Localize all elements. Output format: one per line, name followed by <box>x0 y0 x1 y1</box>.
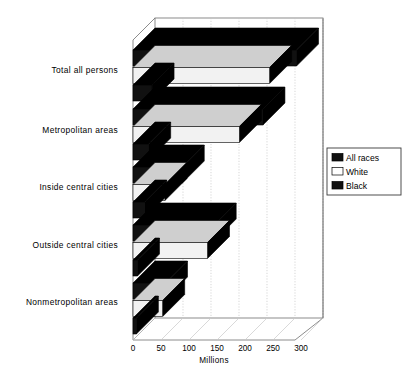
category-label-total-all-persons: Total all persons <box>52 65 118 75</box>
legend-swatch-black <box>332 182 343 190</box>
bar-front-face <box>133 260 137 276</box>
bar-chart-3d: Total all persons Metropolitan areas Ins… <box>0 0 406 368</box>
floor-gridline-150 <box>217 318 239 340</box>
floor-gridline-50 <box>161 318 183 340</box>
floor-gridline-100 <box>189 318 211 340</box>
legend-label-black: Black <box>346 181 368 191</box>
x-tick-label-50: 50 <box>156 344 166 353</box>
legend-label-white: White <box>346 167 368 177</box>
x-axis-tick-labels: 050100150200250300 <box>131 344 309 353</box>
floor-gridlines <box>133 318 323 340</box>
category-label-metropolitan-areas: Metropolitan areas <box>42 125 118 135</box>
category-label-outside-central-cities: Outside central cities <box>33 240 118 250</box>
x-tick-label-200: 200 <box>238 344 252 353</box>
floor-gridline-250 <box>273 318 295 340</box>
chart-container: Total all persons Metropolitan areas Ins… <box>0 0 406 368</box>
x-tick-label-250: 250 <box>266 344 280 353</box>
category-axis-labels: Total all persons Metropolitan areas Ins… <box>26 65 118 307</box>
category-label-nonmetropolitan-areas: Nonmetropolitan areas <box>26 297 118 307</box>
category-label-inside-central-cities: Inside central cities <box>39 182 118 192</box>
x-tick-label-150: 150 <box>210 344 224 353</box>
floor-gridline-200 <box>245 318 267 340</box>
x-tick-label-300: 300 <box>294 344 308 353</box>
bar-top-face <box>133 105 261 127</box>
x-axis-title: Millions <box>199 356 229 365</box>
legend: All races White Black <box>327 148 401 195</box>
x-tick-label-0: 0 <box>131 344 136 353</box>
legend-label-all-races: All races <box>346 153 379 163</box>
legend-swatch-all-races <box>332 154 343 162</box>
legend-swatch-white <box>332 168 343 176</box>
x-tick-label-100: 100 <box>182 344 196 353</box>
bar-front-face <box>133 318 136 334</box>
floor-gridline-300 <box>301 318 323 340</box>
